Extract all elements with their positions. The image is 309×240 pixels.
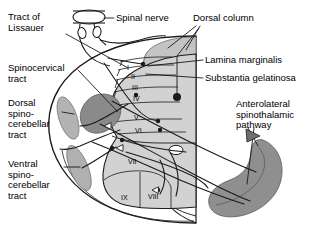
label-ventral-spinocerebellar: Ventral spino- cerebellar tract: [8, 159, 50, 201]
label-dorsal-column: Dorsal column: [193, 13, 254, 24]
lamina-label-IX: IX: [121, 194, 128, 201]
lamina-label-VI: VI: [135, 127, 142, 134]
lamina-label-V: V: [134, 114, 139, 121]
lamina-label-II: II: [131, 73, 135, 80]
label-tract-of-lissauer: Tract of Lissauer: [8, 12, 44, 33]
spinal-cord-diagram: Tract of Lissauer Spinocervical tract Do…: [0, 0, 309, 240]
dorsal-column-entry-fiber: [100, 36, 166, 43]
label-dorsal-spinocerebellar: Dorsal spino- cerebellar tract: [8, 98, 50, 140]
lamina-label-III: III: [132, 84, 138, 91]
lamina-label-I: I: [127, 64, 129, 71]
label-lamina-marginalis: Lamina marginalis: [205, 55, 282, 66]
bouton-3: [156, 119, 160, 123]
lamina-label-VII: VII: [128, 158, 137, 165]
bouton-6: [110, 146, 114, 150]
anterolateral-tract-shape: [209, 140, 282, 217]
root-loop-2: [92, 26, 102, 38]
leader-tract-of-lissauer: [66, 34, 128, 68]
dorsal-root-ganglion: [73, 10, 105, 24]
lamina-label-VIII: VIII: [148, 193, 159, 200]
bouton-1: [141, 62, 145, 66]
anterolateral-tract-region: [209, 140, 282, 217]
dorsal-spinocerebellar-region: [53, 94, 84, 141]
ventral-spinocerebellar-region: [62, 142, 97, 193]
ventral-spinocerebellar-shape: [62, 142, 97, 193]
label-anterolateral-pathway: Anterolateral spinothalamic pathway: [236, 99, 294, 131]
label-spinocervical-tract: Spinocervical tract: [8, 63, 65, 84]
label-substantia-gelatinosa: Substantia gelatinosa: [205, 73, 296, 84]
root-loop-1: [77, 27, 87, 39]
bouton-5: [120, 138, 124, 142]
label-spinal-nerve: Spinal nerve: [116, 13, 169, 24]
bouton-4: [158, 128, 162, 132]
dorsal-spinocerebellar-shape: [53, 94, 84, 141]
lamina-label-IV: IV: [133, 95, 140, 102]
